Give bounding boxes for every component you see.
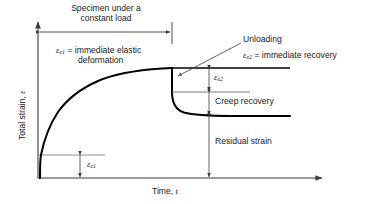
elastic-def-text-line1: = immediate elastic bbox=[67, 45, 141, 55]
loading-span-dimension bbox=[40, 22, 172, 44]
elastic-deformation-label: εe1 = immediate elastic deformation bbox=[56, 46, 141, 66]
recovery-text: = immediate recovery bbox=[254, 50, 336, 60]
loading-span-line2: constant load bbox=[80, 13, 131, 23]
creep-loading-curve bbox=[40, 68, 172, 178]
y-axis-label: Total strain, ε bbox=[18, 90, 28, 140]
unloading-label: Unloading bbox=[243, 35, 282, 45]
x-axis-label-text: Time, bbox=[152, 186, 173, 196]
elastic-def-subscript: e1 bbox=[59, 49, 65, 55]
unloading-leader-line bbox=[178, 43, 241, 76]
recovery-subscript: e2 bbox=[246, 54, 252, 60]
x-axis-label-symbol: t bbox=[176, 186, 178, 196]
residual-strain-label: Residual strain bbox=[215, 137, 272, 147]
immediate-recovery-label: εe2 = immediate recovery bbox=[243, 51, 337, 61]
loading-span-line1: Specimen under a bbox=[71, 3, 141, 13]
e2-subscript: e2 bbox=[217, 76, 223, 82]
y-axis-label-symbol: ε bbox=[17, 90, 27, 93]
diagram-canvas bbox=[0, 0, 366, 204]
creep-recovery-label: Creep recovery bbox=[215, 97, 274, 107]
e1-dimension-label: εe1 bbox=[87, 160, 96, 170]
loading-span-label: Specimen under a constant load bbox=[56, 4, 156, 24]
elastic-def-text-line2: deformation bbox=[78, 56, 123, 66]
x-axis-label: Time, t bbox=[152, 187, 178, 197]
e2-dimension-label: εe2 bbox=[214, 73, 223, 83]
creep-diagram: Specimen under a constant load εe1 = imm… bbox=[0, 0, 366, 204]
e1-subscript: e1 bbox=[90, 163, 96, 169]
y-axis-label-text: Total strain, bbox=[17, 96, 27, 140]
